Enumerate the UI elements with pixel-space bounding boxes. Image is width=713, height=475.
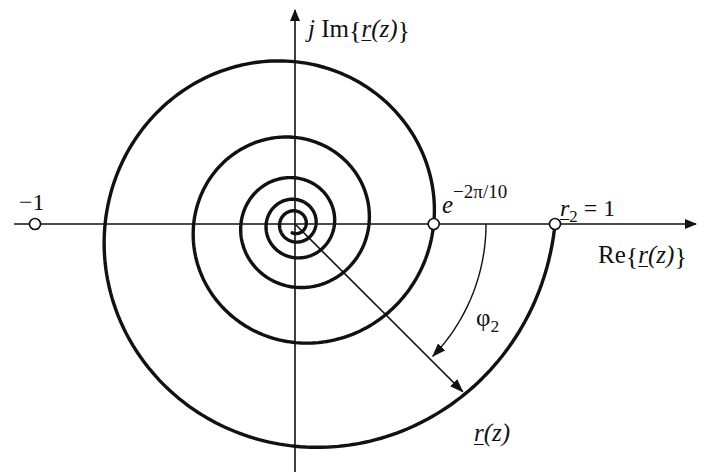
imag-arg: (z) — [371, 15, 397, 42]
e-exponent: −2π/10 — [453, 181, 507, 202]
imag-j: j — [308, 15, 315, 42]
imag-im: Im — [321, 15, 349, 42]
log-spiral-curve — [104, 61, 555, 447]
phi2-angle-arc — [433, 224, 486, 356]
real-func: r — [638, 241, 648, 268]
real-axis-label: Re{r(z)} — [598, 242, 687, 270]
point-minus-one-marker — [30, 219, 41, 230]
real-arg: (z) — [648, 241, 674, 268]
rz-func: r — [474, 419, 484, 446]
phi-sub: 2 — [490, 316, 499, 336]
imag-axis-label: j Im{r(z)} — [308, 16, 410, 44]
label-r2-equals-one: r2 = 1 — [560, 196, 615, 226]
point-r2-marker — [550, 219, 561, 230]
label-e-minus-2pi-10: e−2π/10 — [442, 188, 507, 217]
real-re: Re — [598, 241, 626, 268]
label-minus-one: −1 — [19, 190, 45, 214]
label-r-z: r(z) — [474, 420, 510, 445]
r2-rest: = 1 — [578, 195, 616, 221]
r2-sub: 2 — [569, 207, 577, 226]
e-base: e — [442, 191, 453, 218]
r-z-vector-arrow — [295, 224, 463, 392]
imag-func: r — [361, 15, 371, 42]
rz-arg: (z) — [484, 419, 510, 446]
point-e-minus-2pi-10-marker — [428, 219, 439, 230]
spiral-diagram — [0, 0, 713, 475]
r2-var: r — [560, 195, 569, 221]
phi-symbol: φ — [476, 304, 490, 331]
label-phi2: φ2 — [476, 305, 499, 336]
